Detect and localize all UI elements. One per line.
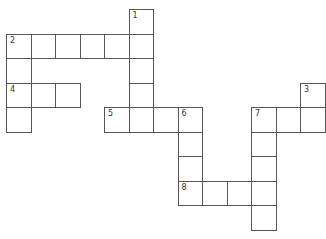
- clue-number: 3: [304, 85, 309, 95]
- clue-number: 4: [10, 85, 15, 95]
- crossword-cell[interactable]: [129, 83, 155, 109]
- crossword-cell[interactable]: [129, 34, 155, 60]
- crossword-cell[interactable]: 2: [6, 34, 32, 60]
- clue-number: 5: [108, 109, 113, 119]
- crossword-cell[interactable]: [153, 107, 179, 133]
- crossword-cell[interactable]: [80, 34, 106, 60]
- crossword-cell[interactable]: [129, 107, 155, 133]
- crossword-grid: 12435678: [0, 0, 326, 239]
- crossword-cell[interactable]: 4: [6, 83, 32, 109]
- crossword-cell[interactable]: [202, 181, 228, 207]
- crossword-cell[interactable]: [31, 83, 57, 109]
- crossword-cell[interactable]: [6, 58, 32, 84]
- crossword-cell[interactable]: 6: [178, 107, 204, 133]
- clue-number: 2: [10, 36, 15, 46]
- crossword-cell[interactable]: 8: [178, 181, 204, 207]
- crossword-cell[interactable]: [178, 156, 204, 182]
- crossword-cell[interactable]: 3: [300, 83, 326, 109]
- crossword-cell[interactable]: [300, 107, 326, 133]
- clue-number: 8: [182, 183, 187, 193]
- crossword-cell[interactable]: [129, 58, 155, 84]
- clue-number: 6: [182, 109, 187, 119]
- crossword-cell[interactable]: [251, 132, 277, 158]
- clue-number: 7: [255, 109, 260, 119]
- crossword-cell[interactable]: [227, 181, 253, 207]
- crossword-cell[interactable]: 7: [251, 107, 277, 133]
- crossword-cell[interactable]: [55, 83, 81, 109]
- clue-number: 1: [133, 11, 138, 21]
- crossword-cell[interactable]: 5: [104, 107, 130, 133]
- crossword-cell[interactable]: [178, 132, 204, 158]
- crossword-cell[interactable]: [251, 181, 277, 207]
- crossword-cell[interactable]: [104, 34, 130, 60]
- crossword-cell[interactable]: [251, 156, 277, 182]
- crossword-cell[interactable]: [251, 205, 277, 231]
- crossword-cell[interactable]: [55, 34, 81, 60]
- crossword-cell[interactable]: [276, 107, 302, 133]
- crossword-cell[interactable]: [6, 107, 32, 133]
- crossword-cell[interactable]: 1: [129, 9, 155, 35]
- crossword-cell[interactable]: [31, 34, 57, 60]
